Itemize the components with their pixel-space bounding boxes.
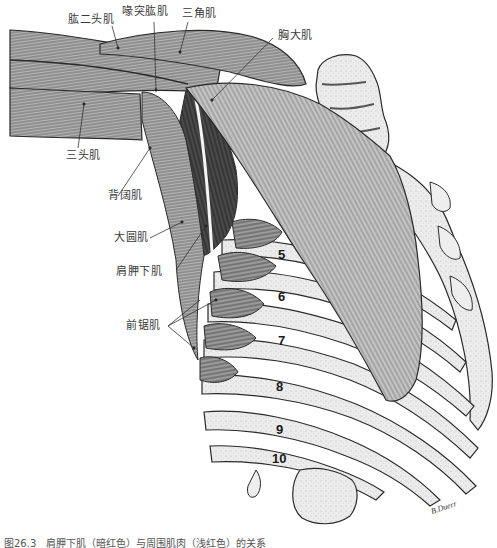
label-deltoid: 三角肌 <box>182 8 217 20</box>
rib-number-10: 10 <box>272 452 286 466</box>
label-serratus-anterior: 前锯肌 <box>126 320 161 332</box>
anatomy-illustration: B.Duerr <box>0 0 497 548</box>
label-teres-major: 大圆肌 <box>114 232 149 244</box>
label-biceps: 肱二头肌 <box>68 14 114 26</box>
label-latissimus-dorsi: 背阔肌 <box>108 190 143 202</box>
label-coracobrachialis: 喙突肱肌 <box>122 6 168 18</box>
rib-number-9: 9 <box>276 423 283 437</box>
label-subscapularis: 肩胛下肌 <box>116 266 162 278</box>
figure-caption: 图26.3 肩胛下肌（暗红色）与周围肌肉（浅红色）的关系 <box>4 538 266 548</box>
anatomy-figure: B.Duerr 肱二头肌 喙突肱肌 三角肌 <box>0 0 497 548</box>
label-pectoralis-major: 胸大肌 <box>278 30 313 42</box>
vertebrae-lower <box>247 468 357 523</box>
rib-number-6: 6 <box>278 290 285 304</box>
rib-number-7: 7 <box>278 334 285 348</box>
rib-number-5: 5 <box>278 248 285 262</box>
rib-number-8: 8 <box>276 380 283 394</box>
label-triceps: 三头肌 <box>66 150 101 162</box>
